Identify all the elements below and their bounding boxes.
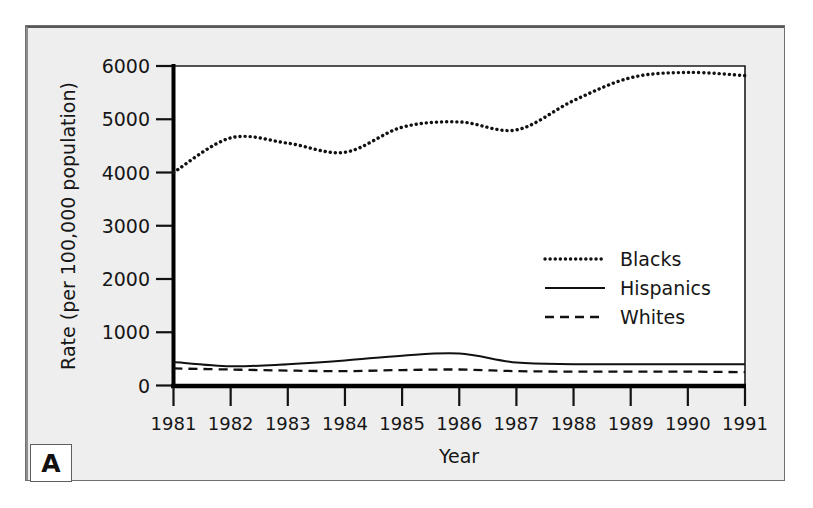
y-tick-label: 6000 [102,55,150,77]
x-tick-label: 1981 [151,413,197,434]
x-tick-label: 1990 [665,413,711,434]
x-tick-label: 1986 [436,413,482,434]
x-axis-tick-labels: 1981198219831984198519861987198819891990… [151,413,768,434]
x-tick-label: 1982 [208,413,254,434]
legend-label-hispanics: Hispanics [620,277,711,299]
x-axis-title: Year [438,445,479,467]
legend-label-whites: Whites [620,306,685,328]
x-tick-label: 1985 [379,413,425,434]
y-tick-label: 3000 [102,215,150,237]
plot-area [172,66,745,385]
y-tick-label: 2000 [102,268,150,290]
x-tick-label: 1988 [551,413,597,434]
x-tick-label: 1991 [722,413,768,434]
y-tick-label: 0 [138,375,150,397]
y-tick-label: 4000 [102,162,150,184]
chart-canvas: 0100020003000400050006000 19811982198319… [0,0,813,508]
y-axis-title: Rate (per 100,000 population) [57,82,79,370]
x-tick-label: 1987 [493,413,539,434]
x-tick-label: 1984 [322,413,368,434]
y-axis-tick-labels: 0100020003000400050006000 [102,55,150,397]
legend-label-blacks: Blacks [620,248,681,270]
x-tick-label: 1989 [608,413,654,434]
panel-label-text: A [41,451,60,476]
panel-label: A [30,444,72,482]
x-tick-label: 1983 [265,413,311,434]
y-tick-label: 5000 [102,108,150,130]
y-tick-label: 1000 [102,321,150,343]
y-axis-ticks [156,66,172,386]
x-axis-ticks [174,388,746,406]
figure-root: 0100020003000400050006000 19811982198319… [0,0,813,508]
